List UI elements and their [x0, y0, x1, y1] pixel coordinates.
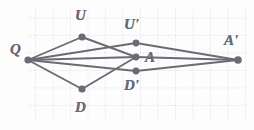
label-dp: D': [124, 78, 139, 93]
label-d: D: [75, 100, 86, 115]
point-ap[interactable]: [234, 56, 242, 64]
label-a: A: [145, 50, 155, 65]
label-q: Q: [10, 42, 21, 57]
label-up: U': [124, 17, 139, 32]
point-up[interactable]: [133, 40, 140, 47]
point-d[interactable]: [78, 85, 85, 92]
label-ap: A': [224, 33, 238, 48]
geometry-figure: QUDU'AD'A': [0, 0, 254, 130]
point-dp[interactable]: [133, 68, 140, 75]
point-u[interactable]: [78, 33, 85, 40]
point-a[interactable]: [133, 54, 140, 61]
label-u: U: [75, 8, 86, 23]
point-q[interactable]: [24, 56, 31, 63]
